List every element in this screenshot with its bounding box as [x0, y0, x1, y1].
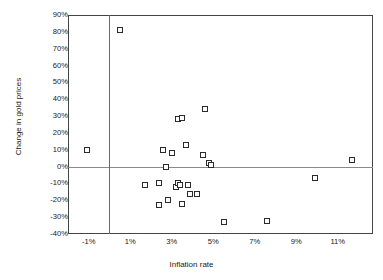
data-point-marker — [156, 202, 162, 208]
y-axis-tick-label: 50% — [28, 78, 68, 86]
data-point-marker — [179, 201, 185, 207]
x-axis-tick-label: 7% — [235, 238, 275, 246]
data-point-marker — [160, 147, 166, 153]
data-point-marker — [156, 180, 162, 186]
data-point-marker — [187, 191, 193, 197]
data-point-marker — [264, 218, 270, 224]
data-point-marker — [183, 142, 189, 148]
data-point-marker — [312, 175, 318, 181]
x-axis-tick-label: 5% — [193, 238, 233, 246]
data-point-marker — [194, 191, 200, 197]
y-axis-tick-label: -20% — [28, 196, 68, 204]
data-point-marker — [202, 106, 208, 112]
data-point-marker — [185, 182, 191, 188]
y-axis-tick-label: 60% — [28, 62, 68, 70]
x-axis-title: Inflation rate — [0, 260, 383, 269]
y-axis-title: Change in gold prices — [14, 47, 23, 187]
y-axis-tick-label: -30% — [28, 213, 68, 221]
y-axis-tick-label: 30% — [28, 112, 68, 120]
y-axis-tick-label: -40% — [28, 230, 68, 238]
data-point-marker — [84, 147, 90, 153]
data-point-marker — [221, 219, 227, 225]
zero-line-horizontal — [68, 167, 373, 168]
x-axis-tick-label: -1% — [69, 238, 109, 246]
data-point-marker — [177, 182, 183, 188]
x-axis-tick-label: 11% — [318, 238, 358, 246]
y-axis-tick-label: 40% — [28, 95, 68, 103]
data-point-marker — [165, 197, 171, 203]
data-point-marker — [349, 157, 355, 163]
y-axis-tick-label: 70% — [28, 45, 68, 53]
plot-area — [68, 15, 373, 234]
data-point-marker — [142, 182, 148, 188]
x-axis-tick-label: 3% — [152, 238, 192, 246]
y-axis-tick-label: 80% — [28, 28, 68, 36]
data-point-marker — [208, 162, 214, 168]
data-point-marker — [163, 164, 169, 170]
y-axis-tick-label: 10% — [28, 146, 68, 154]
x-axis-tick-label: 9% — [276, 238, 316, 246]
data-point-marker — [169, 150, 175, 156]
data-point-marker — [179, 115, 185, 121]
scatter-chart: 90%80%70%60%50%40%30%20%10%0%-10%-20%-30… — [0, 0, 383, 280]
zero-line-vertical — [109, 15, 110, 234]
y-axis-tick-label: 90% — [28, 11, 68, 19]
y-axis-tick-label: 20% — [28, 129, 68, 137]
data-point-marker — [117, 27, 123, 33]
data-point-marker — [200, 152, 206, 158]
x-axis-tick-label: 1% — [110, 238, 150, 246]
y-axis-tick-label: 0% — [28, 163, 68, 171]
y-axis-tick-label: -10% — [28, 179, 68, 187]
